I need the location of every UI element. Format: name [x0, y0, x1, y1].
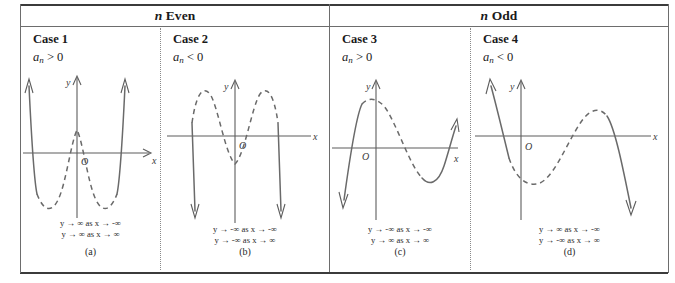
case-4-subcaption: (d)	[471, 246, 668, 257]
case-3-y-label: y	[365, 81, 371, 92]
group-header-n-odd: n Odd	[330, 6, 668, 25]
case-3-curve-left-arm	[344, 104, 362, 200]
case-4-svg: x y O	[471, 68, 668, 220]
case-panel-1: Case 1 an > 0 x y O	[21, 28, 160, 270]
case-3-condition: an > 0	[342, 50, 372, 65]
case-1-subcaption: (a)	[21, 246, 160, 257]
case-3-x-label: x	[453, 153, 459, 164]
case-2-title: Case 2	[173, 32, 208, 47]
case-3-caption-line-1: y → -∞ as x → -∞	[330, 224, 470, 235]
case-1-curve-right-arm	[117, 86, 125, 194]
case-1-graph: x y O	[21, 68, 160, 218]
case-panel-2: Case 2 an < 0 x y O	[161, 28, 329, 270]
case-3-title: Case 3	[342, 32, 377, 47]
case-1-caption: y → ∞ as x → -∞ y → ∞ as x → ∞	[21, 218, 160, 240]
case-1-curve-left-arm	[29, 86, 37, 194]
case-3-caption-line-2: y → ∞ as x → ∞	[330, 235, 470, 246]
case-1-caption-line-2: y → ∞ as x → ∞	[21, 229, 160, 240]
case-3-graph: x y O	[330, 68, 470, 220]
case-2-origin-label: O	[239, 140, 246, 151]
case-2-graph: x y O	[161, 68, 329, 223]
case-3-origin-label: O	[362, 151, 369, 162]
case-2-svg: x y O	[161, 68, 329, 223]
case-4-curve-left-arm	[491, 86, 509, 158]
case-1-y-label: y	[65, 77, 71, 88]
case-4-value: 0	[507, 50, 513, 64]
case-4-curve-dashed	[509, 110, 607, 184]
case-4-caption-line-1: y → ∞ as x → -∞	[471, 224, 668, 235]
group-header-odd-label: Odd	[492, 8, 518, 23]
case-4-subscript: n	[489, 55, 494, 65]
case-3-curve-dashed	[362, 99, 422, 178]
group-header-n-even: n Even	[21, 6, 329, 25]
case-panel-3: Case 3 an > 0 x y O	[330, 28, 470, 270]
case-3-subscript: n	[348, 55, 353, 65]
case-1-subscript: n	[39, 55, 44, 65]
case-4-graph: x y O	[471, 68, 668, 220]
case-4-relation: <	[497, 50, 504, 64]
case-1-relation: >	[47, 50, 54, 64]
case-2-x-label: x	[312, 131, 318, 142]
case-panel-4: Case 4 an < 0 x y O	[471, 28, 668, 270]
case-1-caption-line-1: y → ∞ as x → -∞	[21, 218, 160, 229]
case-1-title: Case 1	[33, 32, 68, 47]
case-4-condition: an < 0	[483, 50, 513, 65]
case-2-subscript: n	[179, 55, 184, 65]
case-1-condition: an > 0	[33, 50, 63, 65]
group-header-even-label: Even	[166, 8, 196, 23]
case-4-caption-line-2: y → -∞ as x → ∞	[471, 235, 668, 246]
group-header-even-variable: n	[155, 8, 163, 23]
case-4-y-label: y	[509, 81, 515, 92]
case-4-x-label: x	[652, 131, 658, 142]
case-4-title: Case 4	[483, 32, 518, 47]
header-bottom-rule	[20, 26, 668, 27]
case-3-subcaption: (c)	[330, 246, 470, 257]
case-2-y-label: y	[223, 81, 229, 92]
case-1-value: 0	[57, 50, 63, 64]
case-2-caption-line-1: y → -∞ as x → -∞	[161, 224, 329, 235]
case-2-subcaption: (b)	[161, 246, 329, 257]
case-3-curve-right-arm	[422, 126, 456, 182]
case-3-caption: y → -∞ as x → -∞ y → ∞ as x → ∞	[330, 224, 470, 246]
case-2-caption: y → -∞ as x → -∞ y → -∞ as x → ∞	[161, 224, 329, 246]
case-2-condition: an < 0	[173, 50, 203, 65]
end-behavior-table: n Even n Odd Case 1 an > 0 x y O	[0, 0, 675, 283]
group-header-odd-variable: n	[481, 8, 489, 23]
case-2-caption-line-2: y → -∞ as x → ∞	[161, 235, 329, 246]
case-3-svg: x y O	[330, 68, 470, 220]
table-right-border	[668, 4, 669, 273]
case-4-curve-right-arm	[607, 116, 631, 208]
case-3-value: 0	[366, 50, 372, 64]
case-1-x-label: x	[151, 155, 157, 166]
case-2-relation: <	[187, 50, 194, 64]
case-4-origin-label: O	[525, 141, 532, 152]
case-3-relation: >	[356, 50, 363, 64]
case-2-value: 0	[197, 50, 203, 64]
case-1-svg: x y O	[21, 68, 160, 218]
case-4-caption: y → ∞ as x → -∞ y → -∞ as x → ∞	[471, 224, 668, 246]
table-bottom-rule	[20, 272, 668, 274]
